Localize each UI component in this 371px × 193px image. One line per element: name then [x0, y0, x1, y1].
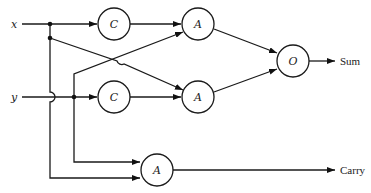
gate-c2-label: C	[110, 91, 119, 104]
output-carry-label: Carry	[340, 164, 366, 176]
gate-o: O	[277, 45, 309, 77]
gate-o-label: O	[288, 55, 297, 68]
gate-c1: C	[98, 8, 130, 40]
junction-y-main	[72, 95, 77, 100]
output-sum-label: Sum	[340, 55, 361, 67]
junction-x-branch	[48, 36, 53, 41]
gate-a1: A	[182, 8, 214, 40]
gate-a2: A	[182, 81, 214, 113]
wire-a2-to-o	[214, 69, 277, 92]
gate-a3-label: A	[152, 164, 161, 177]
gate-a2-label: A	[193, 91, 202, 104]
half-adder-diagram: x y C C A A O A S	[0, 0, 371, 193]
gate-a3: A	[141, 154, 173, 186]
wire-a1-to-o	[214, 29, 277, 53]
junction-x-main	[48, 22, 53, 27]
input-y-label: y	[10, 91, 18, 104]
gate-c1-label: C	[110, 18, 119, 31]
input-x-label: x	[11, 18, 18, 31]
gate-a1-label: A	[193, 18, 202, 31]
gate-c2: C	[98, 81, 130, 113]
wire-y-to-a1	[74, 32, 183, 97]
